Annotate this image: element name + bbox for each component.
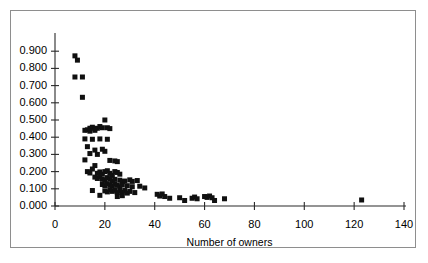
data-point [80, 75, 85, 80]
data-point [359, 197, 364, 202]
data-point [97, 193, 102, 198]
data-point [102, 149, 107, 154]
y-tick-label: 0.800 [3, 62, 47, 73]
data-point [92, 148, 97, 153]
data-point [130, 179, 135, 184]
data-point [222, 196, 227, 201]
data-point [115, 159, 120, 164]
data-point [82, 157, 87, 162]
data-point [80, 95, 85, 100]
x-tick-label: 0 [35, 219, 75, 230]
y-tick-label: 0.700 [3, 80, 47, 91]
data-points [72, 53, 364, 203]
x-axis-title: Number of owners [55, 236, 404, 248]
data-point [167, 196, 172, 201]
data-point [87, 129, 92, 134]
y-tick-label: 0.100 [3, 183, 47, 194]
x-tick-label: 60 [185, 219, 225, 230]
data-point [182, 198, 187, 203]
data-point [117, 172, 122, 177]
data-point [107, 158, 112, 163]
data-point [82, 128, 87, 133]
y-tick-label: 0.000 [3, 200, 47, 211]
data-point [212, 198, 217, 203]
data-point [75, 58, 80, 63]
data-point [142, 185, 147, 190]
data-point [105, 137, 110, 142]
x-tick-label: 120 [334, 219, 374, 230]
data-point [102, 118, 107, 123]
data-point [120, 193, 125, 198]
data-point [97, 136, 102, 141]
x-tick-label: 140 [384, 219, 424, 230]
data-point [72, 53, 77, 58]
data-point [132, 190, 137, 195]
y-tick-label: 0.300 [3, 148, 47, 159]
x-tick-label: 80 [234, 219, 274, 230]
data-point [115, 194, 120, 199]
data-point [137, 184, 142, 189]
data-point [107, 126, 112, 131]
data-point [92, 128, 97, 133]
data-point [135, 178, 140, 183]
data-point [177, 195, 182, 200]
data-point [127, 189, 132, 194]
y-tick-label: 0.400 [3, 131, 47, 142]
data-point [90, 137, 95, 142]
data-point [195, 196, 200, 201]
data-point [82, 136, 87, 141]
data-point [85, 144, 90, 149]
data-point [87, 170, 92, 175]
data-point [72, 75, 77, 80]
data-point [90, 188, 95, 193]
x-tick-label: 20 [85, 219, 125, 230]
data-point [87, 151, 92, 156]
y-tick-label: 0.200 [3, 166, 47, 177]
data-point [120, 183, 125, 188]
x-tick-label: 100 [284, 219, 324, 230]
x-tick-label: 40 [135, 219, 175, 230]
y-tick-label: 0.900 [3, 45, 47, 56]
data-point [130, 184, 135, 189]
y-tick-label: 0.600 [3, 97, 47, 108]
data-point [112, 177, 117, 182]
data-point [162, 194, 167, 199]
data-point [100, 125, 105, 130]
data-point [95, 152, 100, 157]
y-tick-label: 0.500 [3, 114, 47, 125]
data-point [125, 183, 130, 188]
